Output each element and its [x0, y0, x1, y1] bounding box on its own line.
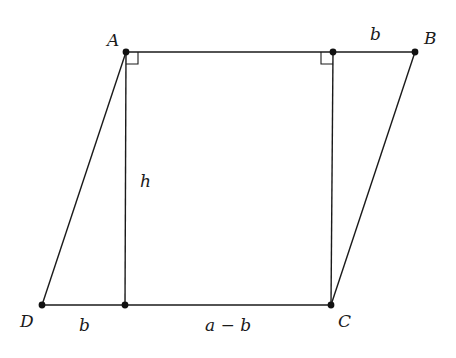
- segment-d-a: [42, 52, 126, 305]
- point-c: [328, 302, 335, 309]
- height-e-c: [331, 52, 333, 305]
- label-a: A: [105, 30, 119, 50]
- parallelogram-diagram: A B b h D b a − b C: [0, 0, 456, 358]
- label-d: D: [19, 311, 34, 331]
- point-d: [39, 302, 46, 309]
- label-b-vertex: B: [423, 28, 437, 48]
- label-bottom-b: b: [79, 315, 90, 335]
- label-top-b: b: [370, 24, 381, 44]
- label-a-minus-b: a − b: [205, 315, 251, 335]
- point-b: [412, 49, 419, 56]
- height-a-f: [125, 52, 126, 305]
- point-e: [330, 49, 337, 56]
- point-a: [123, 49, 130, 56]
- segment-b-c: [331, 52, 415, 305]
- label-c: C: [338, 311, 351, 331]
- label-h: h: [140, 171, 151, 191]
- point-f: [122, 302, 129, 309]
